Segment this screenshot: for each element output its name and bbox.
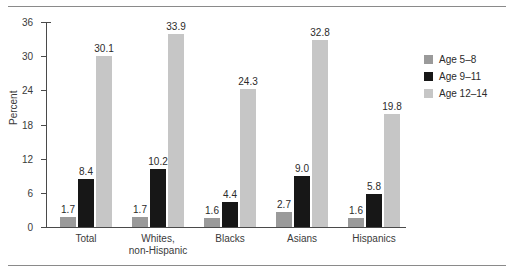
bar-value-label: 1.7 <box>133 204 147 215</box>
x-axis-category-label: Hispanics <box>352 233 395 245</box>
bar-value-label: 10.2 <box>148 156 167 167</box>
bar[interactable] <box>132 217 148 227</box>
legend-item[interactable]: Age 12–14 <box>424 86 487 101</box>
y-axis-tick: 6 <box>41 193 46 194</box>
bar[interactable] <box>204 218 220 227</box>
bar-chart-figure: Percent 061218243036 1.78.430.1Total1.71… <box>0 0 514 277</box>
y-axis-tick-label: 12 <box>22 153 33 164</box>
bar-group: 1.65.819.8Hispanics <box>348 22 400 227</box>
bar-group: 2.79.032.8Asians <box>276 22 328 227</box>
bar-value-label: 1.7 <box>61 204 75 215</box>
bar[interactable] <box>240 89 256 227</box>
y-axis-tick: 36 <box>41 22 46 23</box>
legend-item-label: Age 12–14 <box>439 88 487 99</box>
plot-area: 061218243036 1.78.430.1Total1.710.233.9W… <box>46 22 406 228</box>
y-axis-line <box>46 22 47 228</box>
bar[interactable] <box>348 218 364 227</box>
bar-value-label: 33.9 <box>166 21 185 32</box>
bar-value-label: 4.4 <box>223 189 237 200</box>
legend-item-label: Age 9–11 <box>439 71 481 82</box>
bar[interactable] <box>222 202 238 227</box>
bar[interactable] <box>294 176 310 227</box>
bar[interactable] <box>150 169 166 227</box>
y-axis-tick-label: 30 <box>22 51 33 62</box>
y-axis-tick: 18 <box>41 125 46 126</box>
bar[interactable] <box>168 34 184 227</box>
x-axis-category-label: Blacks <box>215 233 244 245</box>
bar-group: 1.710.233.9Whites,non-Hispanic <box>132 22 184 227</box>
x-axis-category-label: Asians <box>287 233 317 245</box>
bar-value-label: 5.8 <box>367 181 381 192</box>
legend-swatch-icon <box>424 89 433 98</box>
legend-item[interactable]: Age 5–8 <box>424 52 487 67</box>
bar-value-label: 2.7 <box>277 199 291 210</box>
y-axis-tick: 24 <box>41 90 46 91</box>
y-axis-tick-label: 18 <box>22 119 33 130</box>
x-axis-line <box>46 227 406 228</box>
bar[interactable] <box>366 194 382 227</box>
y-axis-tick: 0 <box>41 227 46 228</box>
bar-value-label: 19.8 <box>382 101 401 112</box>
bar[interactable] <box>60 217 76 227</box>
bottom-divider-rule <box>8 265 506 266</box>
bar[interactable] <box>78 179 94 227</box>
bar[interactable] <box>96 56 112 227</box>
top-divider-rule <box>8 6 506 7</box>
bar-value-label: 1.6 <box>205 205 219 216</box>
y-axis-tick: 12 <box>41 159 46 160</box>
bar-value-label: 8.4 <box>79 166 93 177</box>
y-axis-top-cap <box>46 22 51 23</box>
legend-item-label: Age 5–8 <box>439 54 476 65</box>
bar[interactable] <box>312 40 328 227</box>
y-axis-tick-label: 0 <box>27 222 33 233</box>
bar-value-label: 30.1 <box>94 43 113 54</box>
y-axis-tick: 30 <box>41 56 46 57</box>
y-axis-tick-label: 24 <box>22 85 33 96</box>
bar-value-label: 9.0 <box>295 163 309 174</box>
y-axis-tick-label: 6 <box>27 187 33 198</box>
x-axis-category-label: Whites,non-Hispanic <box>129 233 187 257</box>
legend: Age 5–8Age 9–11Age 12–14 <box>424 52 487 103</box>
y-axis-title: Percent <box>8 91 19 125</box>
bar-value-label: 24.3 <box>238 76 257 87</box>
bar-group: 1.78.430.1Total <box>60 22 112 227</box>
legend-swatch-icon <box>424 55 433 64</box>
bar[interactable] <box>276 212 292 227</box>
x-axis-category-label: Total <box>75 233 96 245</box>
legend-swatch-icon <box>424 72 433 81</box>
bar-group: 1.64.424.3Blacks <box>204 22 256 227</box>
legend-item[interactable]: Age 9–11 <box>424 69 487 84</box>
bar[interactable] <box>384 114 400 227</box>
bar-value-label: 32.8 <box>310 27 329 38</box>
y-axis-tick-label: 36 <box>22 17 33 28</box>
bar-value-label: 1.6 <box>349 205 363 216</box>
